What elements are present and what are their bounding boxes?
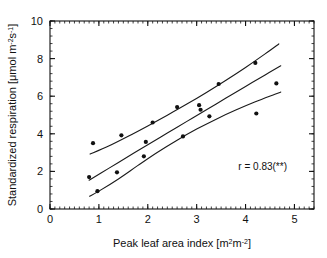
x-tick-label: 4 (242, 213, 248, 225)
data-point (254, 111, 258, 115)
x-tick-label: 3 (194, 213, 200, 225)
x-axis-title: Peak leaf area index [m2m-2] (113, 237, 251, 249)
data-point (217, 82, 221, 86)
data-point (181, 134, 185, 138)
x-tick-label: 2 (145, 213, 151, 225)
data-point (115, 170, 119, 174)
annotation-correlation: r = 0.83(**) (238, 161, 287, 172)
y-tick-label: 2 (37, 165, 43, 177)
y-tick-label: 10 (31, 15, 43, 27)
data-point (119, 133, 123, 137)
y-axis-major-ticks (50, 21, 314, 209)
svg-text:Peak leaf area index [m2m-2]: Peak leaf area index [m2m-2] (113, 237, 251, 249)
data-point (175, 105, 179, 109)
y-axis-tick-labels: 0246810 (31, 15, 43, 215)
data-point (87, 175, 91, 179)
svg-text:Standardized respiration [μmol: Standardized respiration [μmol m-2s-1] (6, 24, 18, 207)
y-axis-minor-ticks (50, 21, 314, 209)
plot-frame (50, 21, 314, 209)
x-tick-label: 5 (291, 213, 297, 225)
x-axis-minor-ticks (50, 21, 314, 209)
data-point (207, 114, 211, 118)
data-point (253, 61, 257, 65)
x-tick-label: 1 (96, 213, 102, 225)
y-tick-label: 8 (37, 53, 43, 65)
data-point (142, 154, 146, 158)
x-tick-label: 0 (47, 213, 53, 225)
scatter-plot-figure: 012345 0246810 r = 0.83(**) Peak leaf ar… (0, 0, 327, 258)
data-point (197, 103, 201, 107)
y-tick-label: 6 (37, 90, 43, 102)
data-point (274, 81, 278, 85)
data-point (144, 140, 148, 144)
y-tick-label: 4 (37, 128, 43, 140)
data-point (151, 120, 155, 124)
y-tick-label: 0 (37, 203, 43, 215)
data-point-markers (87, 61, 278, 193)
axes-frame (50, 21, 314, 209)
data-point (198, 108, 202, 112)
y-axis-title: Standardized respiration [μmol m-2s-1] (6, 24, 18, 207)
plot-canvas: 012345 0246810 r = 0.83(**) Peak leaf ar… (0, 0, 327, 258)
data-point (91, 141, 95, 145)
lower-confidence-band (90, 92, 281, 196)
data-point (95, 189, 99, 193)
x-axis-tick-labels: 012345 (47, 213, 298, 225)
chart-annotations: r = 0.83(**) (238, 161, 287, 172)
